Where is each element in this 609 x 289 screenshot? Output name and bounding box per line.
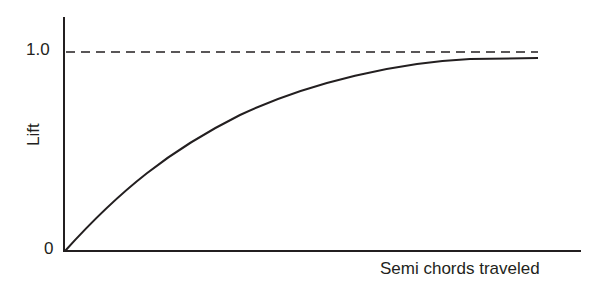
y-axis-label: Lift <box>24 123 44 146</box>
x-axis-label: Semi chords traveled <box>380 259 540 279</box>
plot-area <box>0 0 609 289</box>
tick-label-0: 0 <box>44 239 53 259</box>
lift-curve <box>65 58 538 251</box>
tick-label-1: 1.0 <box>26 40 50 60</box>
